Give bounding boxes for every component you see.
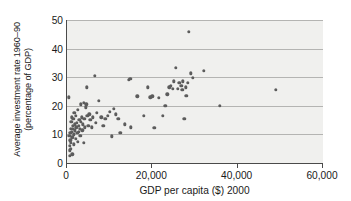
data-point [180,88,183,91]
y-axis-title-line2: (percentage of GDP) [23,22,34,157]
scatter-chart-figure: Average investment rate 1960–90 (percent… [0,0,351,201]
gridline [67,77,323,78]
x-axis-tick-label: 40,000 [221,170,252,181]
data-point [90,126,93,129]
data-point [76,108,79,111]
x-axis-tick-mark [66,164,67,168]
data-point [191,76,194,79]
data-point [174,66,177,69]
data-point [85,86,88,89]
data-point [166,93,169,96]
data-point [97,99,100,102]
data-point [71,153,74,156]
data-point [67,96,70,99]
data-point [180,84,183,87]
data-point [183,117,186,120]
data-point [123,123,126,126]
gridline [67,106,323,107]
data-point [74,114,77,117]
data-point [274,88,277,91]
data-point [157,96,160,99]
y-axis-tick-label: 0 [43,158,63,169]
data-point [185,94,188,97]
y-axis-tick-label: 50 [43,15,63,26]
data-point [106,114,109,117]
data-point [202,69,205,72]
data-point [82,141,85,144]
data-point [99,116,102,119]
data-point [142,114,145,117]
x-axis-title: GDP per capita ($) 2000 [66,185,323,196]
data-point [108,110,111,113]
gridline [67,49,323,50]
data-point [91,116,94,119]
data-point [95,111,98,114]
y-axis-title-wrapper: Average investment rate 1960–90 (percent… [0,0,46,178]
x-axis-tick-mark [322,164,323,168]
data-point [146,86,149,89]
x-axis-tick-label: 20,000 [136,170,167,181]
data-point [81,128,84,131]
data-point [129,126,132,129]
data-point [110,135,113,138]
x-axis-tick-label: 60,000 [306,170,337,181]
data-point [72,143,75,146]
data-point [136,95,139,98]
data-point [172,80,175,83]
y-axis-tick-label: 10 [43,129,63,140]
x-axis-tick-mark [237,164,238,168]
data-point [153,126,156,129]
y-axis-title: Average investment rate 1960–90 (percent… [12,22,35,157]
gridline [67,20,323,21]
data-point [72,117,75,120]
data-point [79,134,82,137]
data-point [181,80,184,83]
data-point [151,95,154,98]
x-axis-tick-marks [66,164,323,170]
data-point [128,77,131,80]
data-point [187,30,190,33]
y-axis-tick-label: 40 [43,43,63,54]
data-point [89,118,92,121]
y-axis-tick-label: 20 [43,100,63,111]
gridline [67,134,323,135]
x-axis-tick-label: 0 [63,170,69,181]
plot-area [66,20,323,164]
data-point [176,87,179,90]
x-axis-tick-mark [151,164,152,168]
data-point [171,87,174,90]
y-axis-tick-labels: 01020304050 [42,0,63,201]
data-point [69,147,72,150]
data-point [184,86,187,89]
y-axis-tick-label: 30 [43,72,63,83]
data-point [76,140,79,143]
data-point [102,124,105,127]
data-point [116,117,119,120]
data-point [112,107,115,110]
y-axis-title-line1: Average investment rate 1960–90 [12,22,22,157]
data-point [70,120,73,123]
data-point [83,117,86,120]
data-point [161,114,164,117]
data-point [84,106,87,109]
data-point [186,81,189,84]
data-point [94,121,97,124]
data-point [114,113,117,116]
data-point [104,117,107,120]
data-point [189,72,192,75]
